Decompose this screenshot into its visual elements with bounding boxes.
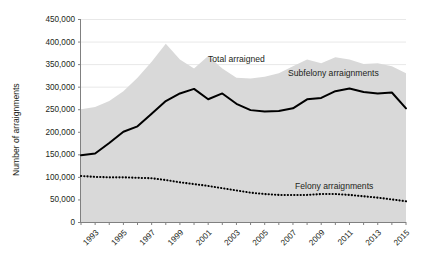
series-label-total-arraigned: Total arraigned bbox=[208, 54, 265, 64]
y-tick-label: 450,000 bbox=[45, 15, 75, 24]
y-tick-label: 150,000 bbox=[45, 150, 75, 159]
series-label-felony-arraignments: Felony arraignments bbox=[295, 181, 373, 191]
y-tick-label: 200,000 bbox=[45, 128, 75, 137]
y-tick-label: 50,000 bbox=[50, 195, 75, 204]
chart-svg: 050,000100,000150,000200,000250,000300,0… bbox=[0, 0, 422, 262]
y-tick-label: 400,000 bbox=[45, 38, 75, 47]
arraignments-chart: 050,000100,000150,000200,000250,000300,0… bbox=[0, 0, 422, 262]
y-tick-label: 0 bbox=[70, 218, 75, 227]
y-tick-label: 100,000 bbox=[45, 173, 75, 182]
y-tick-label: 300,000 bbox=[45, 83, 75, 92]
y-tick-label: 250,000 bbox=[45, 105, 75, 114]
y-tick-label: 350,000 bbox=[45, 60, 75, 69]
series-label-subfelony-arraignments: Subfelony arraignments bbox=[288, 68, 379, 78]
y-axis-title: Number of arraignments bbox=[11, 83, 21, 176]
